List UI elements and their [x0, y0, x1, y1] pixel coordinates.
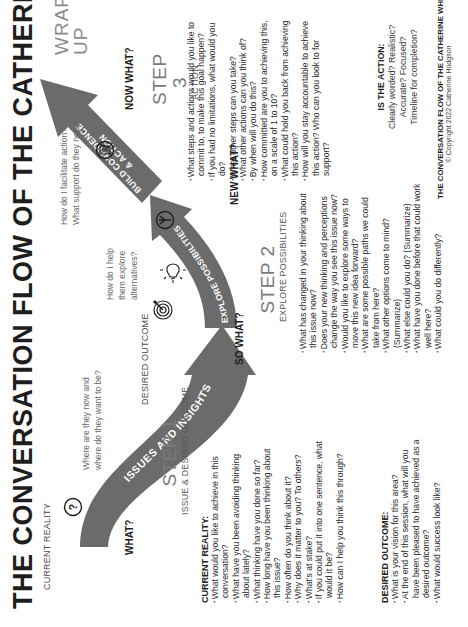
is-the-action-line: Accurate? Focused? — [398, 17, 409, 137]
question-item: Would you like to explore some ways to m… — [340, 181, 361, 353]
step3-heading: STEP 3 — [150, 60, 190, 105]
step2-subheading: EXPLORE POSSIBILITIES — [278, 237, 288, 322]
lightbulb-icon — [158, 255, 188, 285]
is-the-action-heading: IS THE ACTION: — [376, 17, 387, 137]
step2-questions: What has changed in your thinking about … — [298, 181, 444, 353]
footer-title: THE CONVERSATION FLOW OF THE CATHERINE W… — [436, 9, 445, 199]
desired-outcome-questions: What is your vision for this area? At th… — [390, 433, 442, 603]
prompt-line: alternatives? — [128, 248, 140, 300]
current-reality-label: CURRENT REALITY — [42, 503, 52, 590]
question-item: What steps and actions would you like to… — [186, 13, 207, 181]
wrap-up-line-1: WRAP — [52, 0, 71, 55]
copyright: © Copyright 2022 Catherine Hodgson — [445, 9, 452, 199]
question-item: If you had no limitations, what would yo… — [207, 13, 228, 181]
wrap-up-label: WRAP UP — [52, 0, 90, 55]
step3-questions: What steps and actions would you like to… — [186, 13, 332, 181]
question-item: How will you stay accountable to achieve… — [300, 13, 331, 181]
question-item: What's at stake? — [304, 441, 314, 603]
question-item: How long have you been thinking about th… — [262, 441, 283, 603]
prompt-line: Where are they now and — [80, 370, 92, 470]
step1-desired-outcome: DESIRED OUTCOME: What is your vision for… — [380, 433, 442, 603]
so-what-label: SO WHAT? — [234, 312, 245, 365]
question-item: What have you done before that could wor… — [412, 181, 433, 353]
question-item: What could you do differently? — [433, 181, 443, 353]
question-item: Why does it matter to you? To others? — [293, 441, 303, 603]
question-item: What could hold you back from achieving … — [280, 13, 301, 181]
question-item: What else could you do? (Summarize) — [402, 181, 412, 353]
step1-header: STEP 1 ISSUE & DESIRED OUTCOME — [160, 390, 190, 515]
question-item: How committed are you to achieving this,… — [259, 13, 280, 181]
question-item: How often do you think about it? — [283, 441, 293, 603]
question-item: By when will you do this? — [248, 13, 258, 181]
question-item: What would you like to achieve in this c… — [210, 441, 231, 603]
question-item: What has changed in your thinking about … — [298, 181, 319, 353]
step2-heading: STEP 2 — [258, 237, 278, 322]
is-the-action-line: Clearly worded? Realistic? — [387, 17, 398, 137]
question-item: What would success look like? — [432, 433, 442, 603]
question-item: What thinking have you done so far? — [252, 441, 262, 603]
prompt-line: How do I facilitate action? — [58, 118, 70, 225]
question-item: What have you been avoiding thinking abo… — [231, 441, 252, 603]
current-reality-heading: CURRENT REALITY: — [200, 441, 210, 603]
question-item: How can I help you think this through? — [335, 441, 345, 603]
desired-outcome-heading: DESIRED OUTCOME: — [380, 433, 390, 603]
now-what-label: NOW WHAT? — [124, 47, 135, 110]
question-item: What other steps can you take? — [228, 13, 238, 181]
desired-outcome-label: DESIRED OUTCOME — [140, 313, 150, 405]
question-item: What are some possible paths we could ta… — [360, 181, 381, 353]
target-icon — [152, 299, 174, 321]
prompt-explore: How do I help them explore alternatives? — [104, 248, 140, 300]
checklist-icon — [95, 140, 115, 160]
step3-questions-block: What steps and actions would you like to… — [186, 13, 332, 181]
prompt-line: where do they want to be? — [92, 370, 104, 470]
question-item: What other options come to mind? (Summar… — [381, 181, 402, 353]
question-item: Does your new thinking and perceptions c… — [319, 181, 340, 353]
is-the-action-line: Timeline for completion? — [409, 17, 420, 137]
step2-header: STEP 2 EXPLORE POSSIBILITIES — [258, 237, 288, 322]
rotated-page: THE CONVERSATION FLOW OF THE CATHERINE W… — [0, 0, 468, 627]
step1-heading: STEP 1 — [160, 390, 180, 515]
step2-questions-block: What has changed in your thinking about … — [298, 181, 444, 353]
question-item: What other actions can you think of? — [238, 13, 248, 181]
svg-text:?: ? — [67, 503, 79, 510]
prompt-line: How do I help — [104, 248, 116, 300]
step1-current-reality: CURRENT REALITY: What would you like to … — [200, 441, 345, 603]
prompt-current-reality: Where are they now and where do they wan… — [80, 370, 104, 470]
question-item: At the end of this session, what will yo… — [400, 433, 431, 603]
prompt-line: What support do they need? — [70, 118, 82, 225]
is-the-action-checklist: IS THE ACTION: Clearly worded? Realistic… — [376, 17, 420, 137]
prompt-action: How do I facilitate action? What support… — [58, 118, 82, 225]
what-label: WHAT? — [124, 520, 135, 555]
question-item: What is your vision for this area? — [390, 433, 400, 603]
wrap-up-line-2: UP — [71, 0, 90, 55]
prompt-line: them explore — [116, 248, 128, 300]
footer: THE CONVERSATION FLOW OF THE CATHERINE W… — [436, 9, 452, 199]
question-mark-circle-icon: ? — [63, 497, 83, 517]
current-reality-questions: What would you like to achieve in this c… — [210, 441, 345, 603]
step1-subheading: ISSUE & DESIRED OUTCOME — [180, 390, 190, 515]
question-item: If you could put it into one sentence, w… — [314, 441, 335, 603]
fork-paths-icon — [155, 210, 175, 230]
